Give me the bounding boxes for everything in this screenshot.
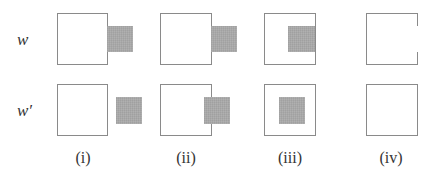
edge-gap <box>415 26 419 52</box>
outline-square <box>366 84 418 136</box>
row-label-w-prime: w′ <box>17 102 32 119</box>
column-label-i: (i) <box>75 150 90 166</box>
gray-square <box>204 97 230 124</box>
column-label-ii: (ii) <box>176 150 196 166</box>
gray-square <box>288 26 315 52</box>
row-label-w: w <box>17 31 28 48</box>
gray-square <box>211 26 237 52</box>
gray-square <box>116 97 142 124</box>
outline-square <box>160 13 212 65</box>
outline-square <box>57 84 108 136</box>
outline-square <box>57 13 108 65</box>
outline-square <box>366 13 418 65</box>
column-label-iv: (iv) <box>379 150 402 166</box>
gray-square <box>107 26 133 52</box>
gray-square <box>279 97 305 124</box>
column-label-iii: (iii) <box>278 150 302 166</box>
